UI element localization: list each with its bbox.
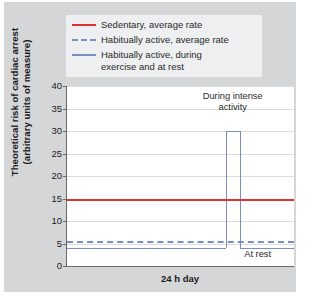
y-tick-label: 40 (36, 80, 62, 91)
gridline (67, 221, 294, 222)
y-tick-label: 10 (36, 215, 62, 226)
legend-swatch-active-average-icon (72, 34, 96, 47)
chart-legend: Sedentary, average rate Habitually activ… (66, 15, 262, 77)
gridline (67, 176, 294, 177)
legend-label-active-exercise: Habitually active, during exercise and a… (101, 49, 202, 72)
y-tick-label: 20 (36, 170, 62, 181)
y-tick-mark (63, 154, 66, 155)
y-tick-mark (63, 199, 66, 200)
y-tick-label: 30 (36, 125, 62, 136)
annotation-during-intense-activity: During intense activity (188, 91, 278, 113)
y-tick-mark (63, 244, 66, 245)
series-active-exercise-riser (240, 131, 241, 248)
figure: Sedentary, average rate Habitually activ… (0, 0, 315, 304)
y-tick-label: 15 (36, 193, 62, 204)
legend-item-active-exercise: Habitually active, during exercise and a… (72, 49, 257, 72)
y-tick-label: 0 (36, 260, 62, 271)
legend-swatch-active-exercise-icon (72, 49, 96, 62)
y-tick-label: 5 (36, 238, 62, 249)
legend-swatch-sedentary-icon (72, 19, 96, 32)
legend-item-active-average: Habitually active, average rate (72, 34, 257, 47)
series-active-exercise-riser (226, 131, 227, 248)
y-tick-label: 25 (36, 148, 62, 159)
gridline (67, 131, 294, 132)
series-sedentary-line (67, 199, 294, 201)
gridline (67, 86, 294, 87)
legend-item-sedentary: Sedentary, average rate (72, 19, 257, 32)
legend-label-active-average: Habitually active, average rate (101, 34, 229, 46)
annotation-at-rest: At rest (213, 249, 303, 260)
y-tick-mark (63, 131, 66, 132)
plot-area: During intense activityAt rest (66, 86, 294, 267)
x-axis-title: 24 h day (66, 273, 294, 284)
series-active-exercise-segment (226, 131, 240, 132)
gridline (67, 154, 294, 155)
y-tick-mark (63, 109, 66, 110)
legend-label-sedentary: Sedentary, average rate (101, 19, 202, 31)
y-axis-title: Theoretical risk of cardiac arrest (arbi… (9, 12, 33, 192)
gridline (67, 244, 294, 245)
y-tick-label: 35 (36, 103, 62, 114)
series-active-average-line (67, 241, 294, 243)
y-tick-mark (63, 266, 66, 267)
y-tick-mark (63, 221, 66, 222)
series-active-exercise-segment (67, 248, 226, 249)
chart-panel: Sedentary, average rate Habitually activ… (4, 2, 296, 292)
y-tick-mark (63, 176, 66, 177)
y-tick-mark (63, 86, 66, 87)
plot-inner: During intense activityAt rest (67, 86, 294, 266)
